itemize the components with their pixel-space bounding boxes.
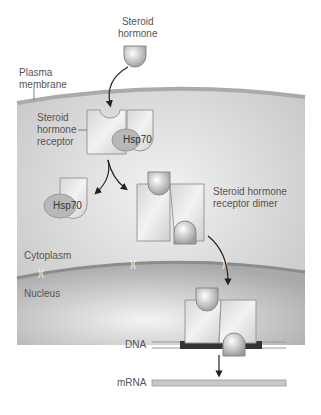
label-cytoplasm: Cytoplasm <box>24 250 71 262</box>
label-hsp70-free: Hsp70 <box>53 200 82 212</box>
label-dimer: Steroid hormone receptor dimer <box>213 186 287 210</box>
label-line: receptor dimer <box>213 198 287 210</box>
label-line: Steroid <box>37 112 76 124</box>
label-plasma-membrane: Plasma membrane <box>19 67 67 91</box>
label-line: Steroid <box>118 16 157 28</box>
label-nucleus: Nucleus <box>24 288 60 300</box>
nucleus-region <box>17 262 305 345</box>
label-receptor: Steroid hormone receptor <box>37 112 76 148</box>
label-line: Plasma <box>19 67 67 79</box>
steroid-hormone-icon <box>124 46 146 67</box>
label-hsp70-bound: Hsp70 <box>123 134 152 146</box>
label-line: receptor <box>37 136 76 148</box>
label-line: membrane <box>19 79 67 91</box>
label-line: hormone <box>118 28 157 40</box>
svg-text:)(: )( <box>38 268 44 278</box>
svg-text:)(: )( <box>130 259 136 269</box>
label-line: Steroid hormone <box>213 186 287 198</box>
receptor-hsp70-complex <box>87 110 153 154</box>
label-line: hormone <box>37 124 76 136</box>
label-steroid-hormone: Steroid hormone <box>118 16 157 40</box>
mrna-strand <box>152 380 286 386</box>
label-mrna: mRNA <box>117 377 146 389</box>
label-dna: DNA <box>125 339 146 351</box>
